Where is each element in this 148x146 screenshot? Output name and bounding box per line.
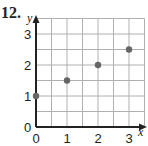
x-tick-label: 1 — [64, 131, 71, 146]
data-point — [95, 62, 101, 68]
x-tick-label: 2 — [95, 131, 102, 146]
data-point — [33, 93, 39, 99]
y-tick-label: 3 — [24, 27, 31, 42]
y-tick-label: 1 — [24, 89, 31, 104]
scatter-plot: 01230123 x y — [0, 0, 148, 146]
y-tick-label: 2 — [24, 58, 31, 73]
data-point — [126, 46, 132, 52]
y-tick-label: 0 — [24, 120, 31, 135]
x-tick-label: 3 — [126, 131, 133, 146]
grid-lines — [36, 19, 145, 128]
tick-labels: 01230123 — [24, 27, 133, 146]
x-tick-label: 0 — [33, 131, 40, 146]
data-point — [64, 77, 70, 83]
x-axis-label: x — [137, 125, 144, 139]
axes — [33, 15, 148, 131]
y-axis-label: y — [26, 11, 33, 25]
